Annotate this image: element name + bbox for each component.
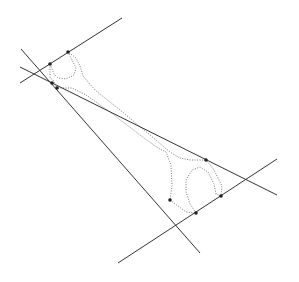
- wrench-tangent-diagram: [0, 0, 299, 282]
- contact-point-p1: [66, 50, 70, 54]
- contact-point-p5: [204, 158, 208, 162]
- contact-point-p2: [48, 62, 52, 66]
- contact-point-p7: [168, 198, 172, 202]
- contact-point-p4: [55, 86, 59, 90]
- contact-point-p6: [219, 194, 223, 198]
- contact-point-p8: [194, 211, 198, 215]
- background: [0, 0, 299, 282]
- contact-point-p3: [50, 81, 54, 85]
